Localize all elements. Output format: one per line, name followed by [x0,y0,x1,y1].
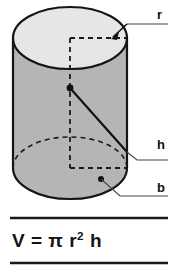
formula-pi: π [48,230,63,251]
volume-formula: V = π r2 h [12,231,102,250]
formula-lhs: V [12,230,25,251]
formula-exponent: 2 [77,229,84,242]
formula-radius-var: r [69,230,77,251]
label-height: h [157,138,165,151]
height-leader-line [127,152,168,160]
formula-height-var: h [90,230,102,251]
label-base: b [157,181,165,194]
formula-equals: = [31,230,43,251]
label-radius: r [157,8,162,21]
